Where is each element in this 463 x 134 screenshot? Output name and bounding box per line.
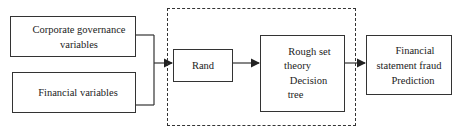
node-corporate-governance-variables: Corporate governance variables [10, 16, 136, 57]
node-financial-variables: Financial variables [12, 72, 136, 113]
node-financial-statement-fraud-prediction: Financial statement fraud Prediction [366, 35, 452, 95]
node-label: Corporate governance [33, 22, 126, 37]
node-rand: Rand [173, 49, 233, 82]
node-label: Decision [290, 74, 327, 89]
node-label: Financial [395, 43, 434, 58]
node-label: Prediction [391, 73, 434, 88]
node-label: tree [288, 88, 304, 103]
node-label: Rand [192, 58, 214, 73]
node-rough-set-decision-tree: Rough set theory Decision tree [260, 35, 345, 112]
node-label: theory [284, 59, 311, 74]
node-label: statement fraud [376, 58, 441, 73]
node-label: Financial variables [38, 85, 118, 100]
node-label: Rough set [288, 45, 330, 60]
node-label: variables [60, 37, 98, 52]
